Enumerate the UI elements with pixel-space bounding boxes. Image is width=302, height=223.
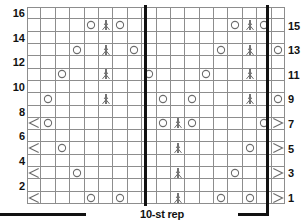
chart-cell-blank (243, 106, 257, 118)
yo-icon (214, 192, 227, 204)
chart-cell-blank (128, 93, 142, 105)
chart-row-10 (27, 81, 285, 93)
chart-cell-blank (85, 81, 99, 93)
chart-cell-blank (56, 192, 70, 204)
chart-cell-blank (257, 44, 271, 56)
chart-row-9 (27, 93, 285, 105)
chart-cell-blank (70, 93, 84, 105)
chart-cell-blank (171, 19, 185, 31)
chart-cell-cdd (99, 44, 113, 56)
chart-cell-blank (27, 44, 41, 56)
chart-cell-blank (200, 118, 214, 130)
chart-cell-blank (70, 56, 84, 68)
row-number-right-1: 1 (288, 192, 302, 204)
chart-cell-blank (128, 192, 142, 204)
chart-cell-blank (200, 81, 214, 93)
chart-cell-blank (27, 81, 41, 93)
chart-cell-blank (228, 7, 242, 19)
chart-cell-blank (41, 142, 55, 154)
cdd-icon (243, 44, 256, 56)
row-number-right-3: 3 (288, 167, 302, 179)
chart-cell-blank (200, 93, 214, 105)
chart-cell-blank (200, 19, 214, 31)
k2tog-icon (272, 192, 285, 204)
chart-cell-blank (214, 167, 228, 179)
chart-cell-blank (99, 155, 113, 167)
chart-cell-cdd (243, 19, 257, 31)
yo-icon (42, 93, 55, 105)
chart-cell-cdd (243, 93, 257, 105)
chart-cell-blank (85, 167, 99, 179)
chart-cell-blank (70, 130, 84, 142)
chart-cell-blank (214, 155, 228, 167)
yo-icon (185, 93, 198, 105)
yo-icon (128, 44, 141, 56)
chart-cell-blank (56, 106, 70, 118)
chart-cell-blank (128, 142, 142, 154)
yo-icon (70, 44, 83, 56)
chart-cell-blank (185, 179, 199, 191)
chart-cell-blank (228, 44, 242, 56)
chart-cell-k2tog (272, 167, 285, 179)
chart-cell-blank (171, 93, 185, 105)
chart-cell-blank (157, 32, 171, 44)
chart-cell-blank (85, 130, 99, 142)
chart-cell-blank (185, 192, 199, 204)
chart-cell-blank (99, 118, 113, 130)
chart-cell-blank (185, 130, 199, 142)
ssk-icon (27, 142, 40, 154)
chart-cell-blank (128, 106, 142, 118)
chart-cell-blank (56, 56, 70, 68)
chart-cell-blank (257, 106, 271, 118)
chart-cell-blank (56, 167, 70, 179)
chart-cell-blank (171, 130, 185, 142)
cdd-icon (171, 142, 184, 154)
chart-cell-blank (171, 155, 185, 167)
chart-cell-blank (113, 179, 127, 191)
row-number-left-16: 16 (4, 7, 25, 19)
chart-cell-blank (41, 56, 55, 68)
chart-cell-blank (272, 7, 285, 19)
chart-cell-yo (243, 142, 257, 154)
chart-cell-yo (41, 118, 55, 130)
chart-cell-blank (214, 142, 228, 154)
chart-cell-blank (70, 106, 84, 118)
chart-row-4 (27, 155, 285, 167)
chart-cell-blank (70, 7, 84, 19)
k2tog-icon (272, 117, 285, 129)
k2tog-icon (272, 167, 285, 179)
chart-grid (27, 7, 285, 204)
chart-cell-blank (41, 69, 55, 81)
chart-row-6 (27, 130, 285, 142)
chart-cell-blank (272, 19, 285, 31)
chart-cell-yo (157, 93, 171, 105)
chart-cell-blank (157, 7, 171, 19)
yo-icon (157, 93, 170, 105)
chart-cell-blank (157, 179, 171, 191)
chart-cell-blank (56, 32, 70, 44)
chart-cell-blank (128, 118, 142, 130)
chart-cell-ssk (27, 167, 41, 179)
chart-cell-ssk (27, 192, 41, 204)
chart-cell-blank (70, 155, 84, 167)
chart-cell-blank (214, 32, 228, 44)
chart-cell-blank (27, 155, 41, 167)
chart-cell-yo (185, 93, 199, 105)
cdd-icon (171, 167, 184, 179)
chart-row-12 (27, 56, 285, 68)
chart-row-11 (27, 69, 285, 81)
chart-cell-blank (243, 81, 257, 93)
chart-cell-blank (27, 19, 41, 31)
chart-cell-blank (157, 81, 171, 93)
chart-cell-blank (257, 179, 271, 191)
yo-icon (214, 44, 227, 56)
yo-icon (185, 117, 198, 129)
chart-cell-blank (85, 32, 99, 44)
chart-cell-blank (113, 167, 127, 179)
chart-cell-blank (157, 69, 171, 81)
chart-cell-blank (228, 106, 242, 118)
chart-cell-yo (214, 192, 228, 204)
chart-cell-blank (113, 130, 127, 142)
chart-cell-blank (228, 179, 242, 191)
chart-cell-blank (243, 7, 257, 19)
